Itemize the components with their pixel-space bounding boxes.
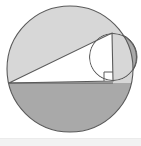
figure-stage [0, 0, 141, 146]
geometry-diagram [0, 0, 141, 146]
lower-shaded-half [0, 83, 141, 146]
bottom-strip [0, 138, 141, 146]
